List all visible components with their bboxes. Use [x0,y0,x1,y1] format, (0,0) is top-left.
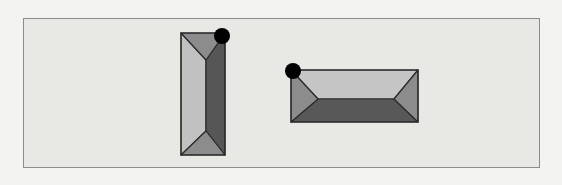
vertex-marker-top-right-icon[interactable] [214,28,230,44]
screenshot-canvas [0,0,562,185]
right-prism[interactable] [285,63,418,122]
shape-scene [0,0,562,185]
left-prism[interactable] [181,28,230,155]
vertex-marker-top-left-icon[interactable] [285,63,301,79]
